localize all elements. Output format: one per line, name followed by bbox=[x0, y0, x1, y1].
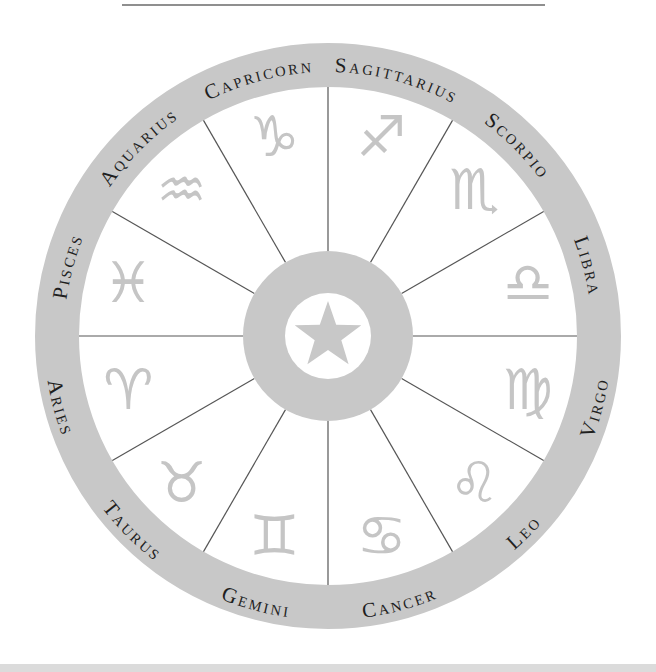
zodiac-wheel: SAGITTARIUS♐SCORPIO♏LIBRA♎VIRGO♍LEO♌CANC… bbox=[0, 0, 656, 672]
scorpio-symbol-icon: ♏ bbox=[449, 157, 499, 222]
aries-symbol-icon: ♈ bbox=[103, 357, 153, 422]
libra-symbol-icon: ♎ bbox=[503, 250, 553, 315]
bottom-strip bbox=[0, 664, 656, 672]
page: SAGITTARIUS♐SCORPIO♏LIBRA♎VIRGO♍LEO♌CANC… bbox=[0, 0, 656, 672]
aquarius-symbol-icon: ♒ bbox=[157, 157, 207, 222]
virgo-symbol-icon: ♍ bbox=[503, 357, 553, 422]
taurus-symbol-icon: ♉ bbox=[157, 450, 207, 515]
capricorn-symbol-icon: ♑ bbox=[249, 104, 299, 169]
leo-symbol-icon: ♌ bbox=[449, 450, 499, 515]
gemini-symbol-icon: ♊ bbox=[249, 503, 299, 568]
pisces-symbol-icon: ♓ bbox=[103, 250, 153, 315]
cancer-symbol-icon: ♋ bbox=[356, 503, 406, 568]
sagittarius-symbol-icon: ♐ bbox=[356, 104, 406, 169]
